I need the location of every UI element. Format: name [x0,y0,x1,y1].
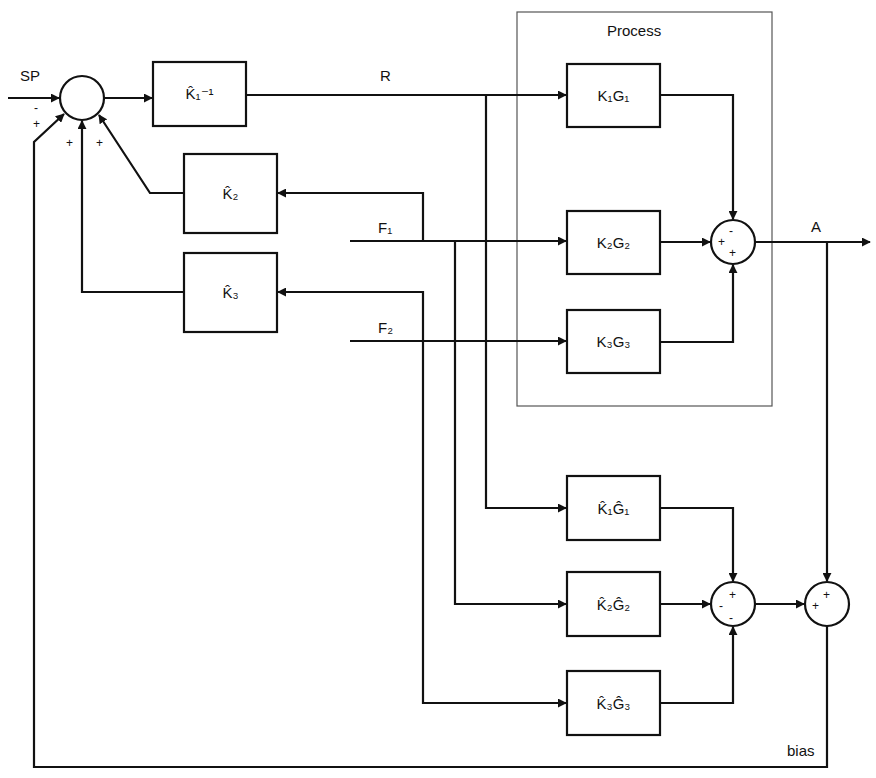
model-sum-sign-bottom: - [729,612,733,624]
block-k3-hat-label: K̂₃ [184,253,277,332]
model-sum-sign-left: - [719,600,723,612]
bias-sum-sign-left: + [812,600,819,612]
signal-f1-label: F₁ [378,220,392,235]
block-k3g3-label: K₃G₃ [567,310,660,373]
sum-input [60,76,104,120]
block-k3g3-hat-label: K̂₃Ĝ₃ [567,671,660,735]
process-sum-sign-bottom: + [729,247,736,259]
diagram-lines [0,0,876,778]
block-k2-hat-label: K̂₂ [184,154,277,233]
block-k2g2-hat-label: K̂₂Ĝ₂ [567,572,660,636]
model-sum-sign-top: + [729,589,736,601]
block-k2g2-label: K₂G₂ [567,211,660,274]
signal-bias-label: bias [787,743,815,758]
signal-sp-label: SP [20,68,40,83]
process-label: Process [607,23,661,38]
input-sum-sign-k3: + [66,137,73,149]
signal-a-label: A [811,219,821,234]
signal-f2-label: F₂ [378,320,393,335]
feedforward-feedback-block-diagram: SP R F₁ F₂ A bias Process K̂₁⁻¹ K̂₂ K̂₃ … [0,0,876,778]
bias-sum-sign-top: + [823,589,830,601]
process-sum-sign-left: + [718,236,725,248]
input-sum-sign-k2: + [96,137,103,149]
signal-r-label: R [380,68,391,83]
block-k1-inv-label: K̂₁⁻¹ [153,62,246,126]
block-k1g1-hat-label: K̂₁Ĝ₁ [567,476,660,540]
block-k1g1-label: K₁G₁ [567,64,660,127]
process-sum-sign-top: - [729,225,733,237]
input-sum-sign-bias: + [33,118,40,130]
input-sum-sign-sp: - [34,102,38,114]
